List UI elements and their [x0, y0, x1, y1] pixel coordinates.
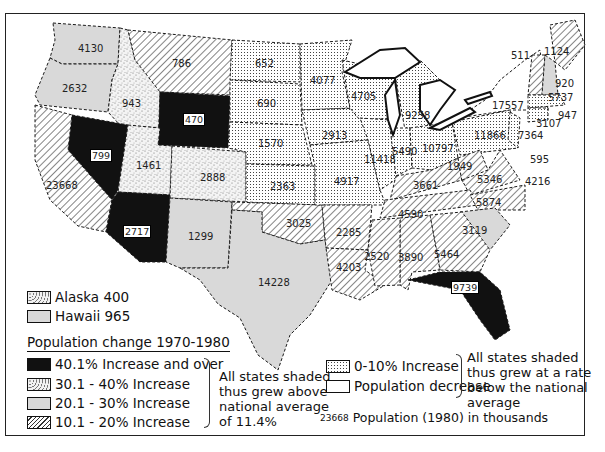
- label-ky: 3661: [413, 180, 438, 191]
- hawaii-label: Hawaii 965: [55, 308, 130, 324]
- note-line: below the national: [467, 380, 591, 395]
- label-wa: 4130: [78, 43, 103, 54]
- label-wi: 4705: [351, 91, 376, 102]
- brace-below: [456, 354, 462, 398]
- label-vt: 511: [511, 50, 530, 61]
- label-ga: 5464: [434, 249, 459, 260]
- label-de: 595: [530, 154, 549, 165]
- units-note: 23668 Population (1980) in thousands: [320, 410, 548, 425]
- alaska-label: Alaska 400: [55, 289, 129, 305]
- note-line: national average: [219, 399, 331, 414]
- label-nv: 799: [90, 149, 112, 162]
- legend-title: Population change 1970-1980: [27, 334, 230, 352]
- units-text: Population (1980) in thousands: [353, 410, 549, 425]
- label-ct: 3107: [536, 118, 561, 129]
- units-sample: 23668: [320, 413, 349, 423]
- legend-item-decrease: Population decrease: [326, 378, 491, 394]
- gray-swatch-icon: [27, 310, 51, 323]
- label-md: 4216: [525, 176, 550, 187]
- legend-item-30-40: 30.1 - 40% Increase: [27, 376, 190, 392]
- black-swatch-icon: [27, 358, 51, 371]
- note-line: of 11.4%: [219, 414, 331, 429]
- note-line: All states shaded: [219, 369, 331, 384]
- legend-item-0-10: 0-10% Increase: [326, 358, 459, 374]
- label-pa: 11866: [474, 130, 506, 141]
- note-line: thus grew at a rate: [467, 365, 591, 380]
- legend-item-20-30: 20.1 - 30% Increase: [27, 395, 190, 411]
- label-co: 2888: [200, 172, 225, 183]
- note-line: thus grew above: [219, 384, 331, 399]
- label-ut: 1461: [136, 160, 161, 171]
- legend-item-40plus: 40.1% Increase and over: [27, 356, 223, 372]
- label-tx: 14228: [258, 277, 290, 288]
- label-fl: 9739: [451, 281, 479, 294]
- note-line: average: [467, 395, 591, 410]
- label-ma: 5737: [548, 92, 573, 103]
- white-swatch-icon: [326, 380, 350, 393]
- label-tn: 4590: [398, 209, 423, 220]
- label-al: 3890: [398, 252, 423, 263]
- legend-label: 0-10% Increase: [354, 358, 459, 374]
- label-ks: 2363: [270, 181, 295, 192]
- dot-grid-swatch-icon: [326, 360, 350, 373]
- stipple-swatch-icon: [27, 291, 51, 304]
- note-line: All states shaded: [467, 350, 591, 365]
- label-la: 4203: [336, 262, 361, 273]
- label-ca: 23668: [46, 180, 78, 191]
- label-ms: 2520: [364, 251, 389, 262]
- state-me: [550, 20, 585, 70]
- note-above: All states shaded thus grew above nation…: [219, 369, 331, 429]
- label-mn: 4077: [310, 75, 335, 86]
- label-mt: 786: [172, 58, 191, 69]
- legend-label: 10.1 - 20% Increase: [55, 414, 190, 430]
- stipple-swatch-icon: [27, 378, 51, 391]
- legend-label: 40.1% Increase and over: [55, 356, 223, 372]
- brace-above: [204, 358, 210, 428]
- label-sd: 690: [257, 98, 276, 109]
- label-mo: 4917: [334, 176, 359, 187]
- legend-item-10-20: 10.1 - 20% Increase: [27, 414, 190, 430]
- label-wv: 1949: [447, 161, 472, 172]
- inset-hawaii: Hawaii 965: [27, 308, 130, 324]
- label-nm: 1299: [188, 231, 213, 242]
- gray-swatch-icon: [27, 397, 51, 410]
- label-ne: 1570: [258, 138, 283, 149]
- label-va: 5346: [477, 174, 502, 185]
- label-in: 5490: [392, 146, 417, 157]
- label-az: 2717: [123, 225, 151, 238]
- label-id: 943: [122, 98, 141, 109]
- label-ar: 2285: [336, 227, 361, 238]
- label-or: 2632: [62, 83, 87, 94]
- label-nc: 5874: [476, 197, 501, 208]
- legend-label: 20.1 - 30% Increase: [55, 395, 190, 411]
- label-ny: 17557: [492, 100, 524, 111]
- label-wy: 470: [183, 113, 205, 126]
- label-nh: 920: [555, 78, 574, 89]
- label-mi: 9258: [405, 110, 430, 121]
- legend-label: 30.1 - 40% Increase: [55, 376, 190, 392]
- label-ia: 2913: [322, 130, 347, 141]
- label-sc: 3119: [462, 225, 487, 236]
- hatch-swatch-icon: [27, 416, 51, 429]
- label-ok: 3025: [286, 218, 311, 229]
- note-below: All states shaded thus grew at a rate be…: [467, 350, 591, 410]
- inset-alaska: Alaska 400: [27, 289, 129, 305]
- label-oh: 10797: [422, 143, 454, 154]
- label-me: 1124: [544, 46, 569, 57]
- label-nd: 652: [255, 58, 274, 69]
- label-nj: 7364: [518, 130, 543, 141]
